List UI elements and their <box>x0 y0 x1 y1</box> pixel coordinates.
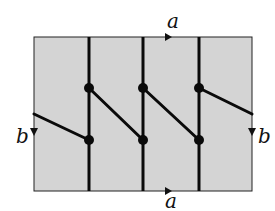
node <box>84 83 94 93</box>
node <box>84 135 94 145</box>
top-edge-label: a <box>167 9 179 33</box>
left-edge-label: b <box>16 124 29 148</box>
bottom-edge-label: a <box>165 189 177 211</box>
node <box>194 135 204 145</box>
right-edge-label: b <box>258 124 271 148</box>
node <box>138 135 148 145</box>
node <box>194 83 204 93</box>
node <box>138 83 148 93</box>
torus-diagram: a a b b <box>0 0 275 211</box>
